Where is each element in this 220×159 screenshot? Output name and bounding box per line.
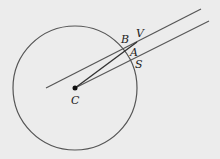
circle-diagram: B V A S C <box>0 0 220 159</box>
label-c: C <box>71 94 80 107</box>
label-v: V <box>136 27 145 40</box>
radius-to-v-line <box>75 42 137 88</box>
label-b: B <box>120 33 129 46</box>
upper-parallel-line <box>46 9 201 88</box>
center-point <box>73 86 78 91</box>
label-s: S <box>135 58 143 71</box>
